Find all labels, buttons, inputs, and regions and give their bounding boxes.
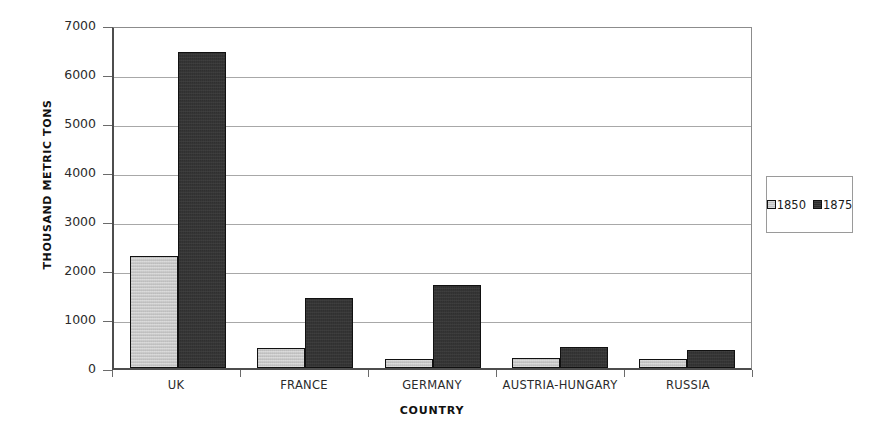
bar-france-1875 — [305, 298, 353, 368]
bar-germany-1875 — [433, 285, 481, 368]
y-axis-tick-mark — [103, 174, 112, 175]
plot-area — [112, 27, 752, 370]
y-axis-tick-label: 2000 — [64, 263, 96, 278]
legend-item-1850: 1850 — [767, 198, 806, 212]
bar-austria-hungary-1875 — [560, 347, 608, 368]
y-axis-tick-mark — [103, 370, 112, 371]
y-axis-tick-label: 4000 — [64, 165, 96, 180]
bar-uk-1875 — [178, 52, 226, 368]
y-axis-tick-label: 1000 — [64, 312, 96, 327]
x-axis-label: UK — [112, 378, 240, 392]
bar-group — [114, 28, 241, 368]
legend-label: 1875 — [823, 198, 852, 212]
y-axis-tick-mark — [103, 76, 112, 77]
bar-group — [369, 28, 496, 368]
bar-groups — [114, 28, 751, 368]
x-axis-tick-mark — [368, 370, 369, 377]
x-axis-tick-mark — [496, 370, 497, 377]
y-axis-tick-mark — [103, 321, 112, 322]
y-axis-tick-mark — [103, 223, 112, 224]
x-axis-label: GERMANY — [368, 378, 496, 392]
x-axis-label: AUSTRIA-HUNGARY — [496, 378, 624, 392]
x-axis-tick-mark — [112, 370, 113, 377]
legend-item-1875: 1875 — [813, 198, 852, 212]
y-axis-tick-label: 6000 — [64, 67, 96, 82]
y-axis-tick-label: 0 — [88, 361, 96, 376]
legend: 18501875 — [766, 176, 853, 233]
bar-russia-1850 — [639, 359, 687, 368]
bar-uk-1850 — [130, 256, 178, 368]
legend-swatch-icon — [813, 200, 822, 209]
bar-france-1850 — [257, 348, 305, 368]
y-axis-tick-label: 5000 — [64, 116, 96, 131]
bar-group — [624, 28, 751, 368]
x-axis-tick-mark — [624, 370, 625, 377]
y-axis-tick-label: 7000 — [64, 18, 96, 33]
y-axis-tick-mark — [103, 125, 112, 126]
x-axis-tick-group — [112, 370, 752, 378]
bar-russia-1875 — [687, 350, 735, 368]
bar-group — [496, 28, 623, 368]
bar-group — [241, 28, 368, 368]
legend-swatch-icon — [767, 200, 776, 209]
x-axis-labels: UKFRANCEGERMANYAUSTRIA-HUNGARYRUSSIA — [112, 378, 752, 392]
bar-germany-1850 — [385, 359, 433, 368]
y-axis-tick-mark — [103, 272, 112, 273]
x-axis-label: RUSSIA — [624, 378, 752, 392]
bar-chart: THOUSAND METRIC TONS 0100020003000400050… — [0, 0, 895, 434]
bar-austria-hungary-1850 — [512, 358, 560, 368]
x-axis-label: FRANCE — [240, 378, 368, 392]
y-axis-tick-label: 3000 — [64, 214, 96, 229]
y-axis-tick-mark — [103, 27, 112, 28]
x-axis-tick-mark — [240, 370, 241, 377]
y-axis-tick-group: 01000200030004000500060007000 — [0, 27, 112, 370]
x-axis-tick-mark — [752, 370, 753, 377]
x-axis-title: COUNTRY — [112, 404, 752, 417]
legend-label: 1850 — [777, 198, 806, 212]
